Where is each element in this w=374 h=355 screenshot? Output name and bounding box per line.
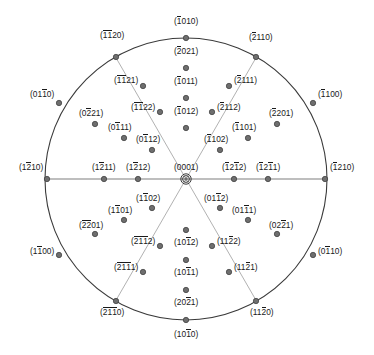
pole-top-marker bbox=[183, 35, 188, 40]
pole-eq-l-1211-label: (1211) bbox=[92, 163, 116, 171]
pole-n-2021-marker bbox=[183, 65, 188, 70]
pole-sect-ne-2112-marker bbox=[209, 109, 214, 114]
pole-rim-wl-dn-marker bbox=[56, 252, 61, 257]
pole-s-1012-marker bbox=[183, 227, 188, 232]
pole-sect-ne-2111-label: (2111) bbox=[234, 76, 257, 84]
pole-rim-lr-label: (1120) bbox=[250, 308, 274, 316]
pole-sect-sw-2112-label: (2112) bbox=[131, 237, 155, 245]
pole-nw-0112-label: (0112) bbox=[136, 135, 160, 143]
pole-nw-0112-marker bbox=[149, 147, 154, 152]
pole-eq-r-1212-marker bbox=[231, 176, 236, 181]
pole-ne-1102-label: (1102) bbox=[204, 135, 228, 143]
center-pole-marker bbox=[184, 177, 187, 180]
pole-sw-1101-marker bbox=[121, 217, 126, 222]
pole-sect-se-1121-marker bbox=[226, 269, 231, 274]
pole-rim-ul-label: (1120) bbox=[100, 31, 124, 39]
pole-rim-wl-up-marker bbox=[56, 100, 61, 105]
pole-sect-ne-2112-label: (2112) bbox=[217, 103, 241, 111]
pole-rim-wr-up-label: (1100) bbox=[318, 90, 342, 98]
pole-se-0221-label: (0221) bbox=[269, 221, 293, 229]
pole-nw-0221-marker bbox=[92, 121, 97, 126]
pole-sect-sw-2111-marker bbox=[140, 269, 145, 274]
pole-sect-se-1121-label: (1121) bbox=[234, 263, 258, 271]
pole-sw-2201-label: (2201) bbox=[79, 221, 103, 229]
pole-sw-1102-label: (1102) bbox=[136, 194, 160, 202]
pole-right-marker bbox=[322, 176, 327, 181]
pole-sw-1101-label: (1101) bbox=[108, 206, 132, 214]
pole-ne-1101-label: (1101) bbox=[232, 123, 256, 131]
pole-ne-1101-marker bbox=[245, 135, 250, 140]
pole-nw-0111-marker bbox=[121, 135, 126, 140]
pole-s-2021-marker bbox=[183, 287, 188, 292]
center-pole-label: (0001) bbox=[174, 163, 198, 171]
pole-s-2021-label: (2021) bbox=[174, 298, 198, 306]
pole-rim-ll-marker bbox=[113, 298, 118, 303]
pole-s-1011-label: (1011) bbox=[174, 268, 198, 276]
pole-rim-lr-marker bbox=[253, 298, 258, 303]
pole-rim-wl-dn-label: (1100) bbox=[30, 247, 54, 255]
pole-rim-ul-marker bbox=[113, 54, 118, 59]
pole-eq-l-1212-label: (1212) bbox=[126, 163, 150, 171]
pole-n-1012-marker bbox=[183, 125, 188, 130]
pole-eq-l-1211-marker bbox=[101, 176, 106, 181]
pole-rim-wr-dn-label: (0110) bbox=[318, 247, 342, 255]
pole-n-1011-label: (1011) bbox=[174, 77, 198, 85]
pole-top-label: (1010) bbox=[174, 17, 198, 25]
pole-eq-r-1211-label: (1211) bbox=[256, 163, 280, 171]
pole-eq-r-1211-marker bbox=[265, 176, 270, 181]
pole-rim-wr-up-marker bbox=[310, 100, 315, 105]
pole-right-label: (1210) bbox=[330, 163, 354, 171]
pole-se-0111-label: (0111) bbox=[232, 206, 256, 214]
pole-sect-se-1122-label: (1122) bbox=[217, 237, 241, 245]
pole-sect-nw-1121-marker bbox=[140, 83, 145, 88]
pole-eq-r-1212-label: (1212) bbox=[222, 163, 246, 171]
pole-se-0112-marker bbox=[217, 205, 222, 210]
pole-rim-ll-label: (2110) bbox=[100, 308, 124, 316]
pole-sect-nw-1122-label: (1122) bbox=[131, 103, 155, 111]
pole-s-1012-label: (1012) bbox=[174, 238, 198, 246]
pole-nw-0111-label: (0111) bbox=[108, 123, 132, 131]
pole-se-0221-marker bbox=[274, 231, 279, 236]
pole-bottom-marker bbox=[183, 317, 188, 322]
pole-sect-se-1122-marker bbox=[209, 243, 214, 248]
pole-sect-nw-1122-marker bbox=[157, 109, 162, 114]
pole-eq-l-1212-marker bbox=[135, 176, 140, 181]
pole-rim-ur-marker bbox=[253, 54, 258, 59]
pole-s-1011-marker bbox=[183, 257, 188, 262]
pole-sect-ne-2111-marker bbox=[226, 83, 231, 88]
pole-n-1011-marker bbox=[183, 95, 188, 100]
pole-ne-2201-marker bbox=[274, 121, 279, 126]
pole-bottom-label: (1010) bbox=[174, 330, 198, 338]
pole-left-label: (1210) bbox=[19, 163, 43, 171]
pole-rim-wl-up-label: (0110) bbox=[30, 90, 54, 98]
stereographic-projection-figure: (0001)(1010)(1010)(1210)(1210)(1120)(211… bbox=[0, 0, 374, 355]
pole-rim-ur-label: (2110) bbox=[249, 33, 273, 41]
pole-n-2021-label: (2021) bbox=[174, 47, 198, 55]
pole-rim-wr-dn-marker bbox=[310, 252, 315, 257]
pole-left-marker bbox=[44, 176, 49, 181]
pole-sw-1102-marker bbox=[149, 205, 154, 210]
pole-sw-2201-marker bbox=[92, 231, 97, 236]
pole-sect-sw-2111-label: (2111) bbox=[114, 263, 138, 271]
pole-sect-nw-1121-label: (1121) bbox=[114, 76, 138, 84]
pole-nw-0221-label: (0221) bbox=[79, 109, 103, 117]
pole-ne-2201-label: (2201) bbox=[269, 109, 293, 117]
pole-se-0112-label: (0112) bbox=[204, 194, 228, 202]
pole-sect-sw-2112-marker bbox=[157, 243, 162, 248]
pole-n-1012-label: (1012) bbox=[174, 107, 198, 115]
pole-ne-1102-marker bbox=[217, 147, 222, 152]
pole-se-0111-marker bbox=[245, 217, 250, 222]
